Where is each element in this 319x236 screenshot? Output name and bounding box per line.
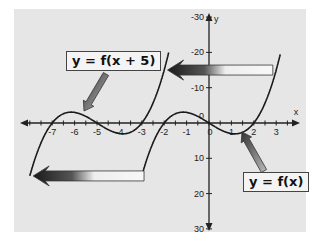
x-tick-label: -1 <box>183 127 191 137</box>
x-tick-label: -4 <box>115 127 123 137</box>
x-tick-label: 3 <box>274 127 279 137</box>
shift-arrow-upper <box>168 60 273 80</box>
x-tick-label: 1 <box>229 127 234 137</box>
y-axis-down-arrow-icon <box>206 223 213 231</box>
y-tick-label: 20 <box>194 189 204 199</box>
pointer-to-shifted-curve <box>83 73 108 112</box>
y-tick-label: -20 <box>191 47 204 57</box>
x-tick-label: -2 <box>160 127 168 137</box>
x-tick-label: -3 <box>138 127 146 137</box>
axes: yx-7-6-5-4-3-2-101230302010-10-20-30 <box>20 12 300 234</box>
y-tick-label: 30 <box>194 224 204 234</box>
label-shifted-function: y = f(x + 5) <box>66 51 161 71</box>
pointer-arrow-icon <box>241 132 266 173</box>
x-axis-label: x <box>294 107 299 117</box>
y-tick-label: 10 <box>194 153 204 163</box>
function-graph: yx-7-6-5-4-3-2-101230302010-10-20-30 <box>0 0 319 236</box>
y-axis-label: y <box>214 14 219 24</box>
x-tick-label: -5 <box>93 127 101 137</box>
x-axis-right-arrow-icon <box>292 120 300 127</box>
label-original-function: y = f(x) <box>243 172 309 192</box>
x-tick-label: 0 <box>207 127 212 137</box>
left-arrow-icon <box>168 60 273 80</box>
y-tick-label: -30 <box>191 12 204 22</box>
left-arrow-icon <box>33 166 144 186</box>
shift-arrow-lower <box>33 166 144 186</box>
x-axis-left-arrow-icon <box>20 120 28 127</box>
y-tick-label: -10 <box>191 83 204 93</box>
pointer-arrow-icon <box>83 73 108 112</box>
x-tick-label: -7 <box>48 127 56 137</box>
x-tick-label: -6 <box>71 127 79 137</box>
x-tick-label: 2 <box>251 127 256 137</box>
pointer-to-original-curve <box>241 132 266 173</box>
